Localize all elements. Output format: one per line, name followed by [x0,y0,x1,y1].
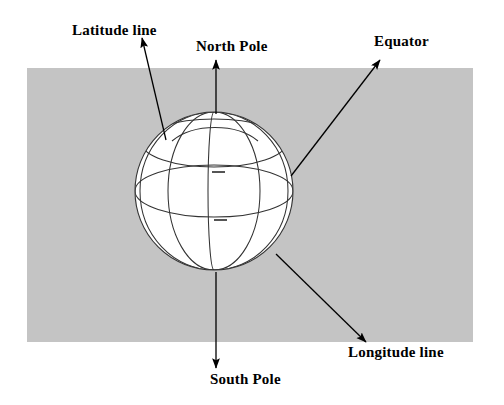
label-equator: Equator [374,33,429,50]
globe-group [135,112,293,270]
globe-sphere [135,112,293,270]
label-north-pole: North Pole [196,38,268,55]
diagram-page: Latitude line North Pole Equator Longitu… [0,0,504,405]
label-south-pole: South Pole [210,371,281,388]
label-longitude-line: Longitude line [348,344,444,361]
label-latitude-line: Latitude line [72,22,157,39]
